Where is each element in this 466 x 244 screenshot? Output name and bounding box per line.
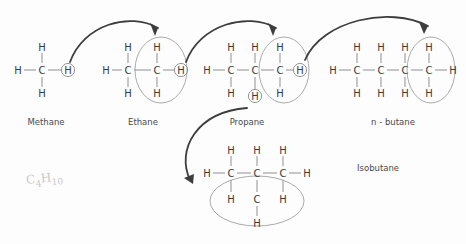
- circled-hydrogen-atom-ethane: H: [177, 65, 185, 76]
- hydrogen-atom-ethane: H: [153, 88, 161, 99]
- hydrogen-atom-propane: H: [227, 88, 235, 99]
- molecule-label-propane: Propane: [230, 117, 265, 127]
- hydrogen-atom-n-butane: H: [401, 42, 409, 53]
- handwritten-formula-annotation: C4H10: [25, 169, 64, 190]
- hydrogen-atom-methane: H: [38, 88, 46, 99]
- diagram-canvas: CHHHHCCHHHHHHCCCHHHHHHHHCCCCHHHHHHHHHHCC…: [0, 0, 466, 244]
- hydrogen-atom-n-butane: H: [401, 88, 409, 99]
- molecule-label-methane: Methane: [27, 117, 64, 127]
- carbon-atom-isobutane: C: [280, 168, 287, 179]
- carbon-atom-n-butane: C: [402, 65, 409, 76]
- hydrogen-atom-propane: H: [203, 65, 211, 76]
- reaction-arrowhead-methane-to-ethane: [150, 23, 158, 36]
- circled-hydrogen-atom-propane: H: [251, 91, 259, 102]
- molecule-label-ethane: Ethane: [128, 117, 158, 127]
- hydrogen-atom-isobutane: H: [227, 145, 235, 156]
- hydrogen-atom-propane: H: [227, 42, 235, 53]
- hydrogen-atom-propane: H: [251, 42, 259, 53]
- carbon-atom-n-butane: C: [354, 65, 361, 76]
- hydrogen-atom-ethane: H: [153, 42, 161, 53]
- carbon-atom-propane: C: [252, 65, 259, 76]
- hydrogen-atom-propane: H: [276, 42, 284, 53]
- hydrogen-atom-isobutane: H: [303, 168, 311, 179]
- hydrogen-atom-propane: H: [276, 88, 284, 99]
- hydrogen-atom-isobutane: H: [203, 168, 211, 179]
- hydrogen-atom-methane: H: [14, 65, 22, 76]
- reaction-arrow-propane-to-n-butane: [305, 17, 428, 60]
- hydrogen-atom-n-butane: H: [353, 42, 361, 53]
- carbon-atom-n-butane: C: [378, 65, 385, 76]
- hydrogen-atom-n-butane: H: [353, 88, 361, 99]
- carbon-atom-n-butane: C: [426, 65, 433, 76]
- carbon-atom-propane: C: [277, 65, 284, 76]
- hydrogen-atom-isobutane: H: [279, 194, 287, 205]
- carbon-atom-isobutane: C: [254, 194, 261, 205]
- carbon-atom-ethane: C: [154, 65, 161, 76]
- carbon-atom-propane: C: [228, 65, 235, 76]
- hydrogen-atom-isobutane: H: [253, 145, 261, 156]
- carbon-atom-methane: C: [39, 65, 46, 76]
- hydrogen-atom-n-butane: H: [449, 65, 457, 76]
- hydrogen-atom-isobutane: H: [227, 194, 235, 205]
- hydrogen-atom-n-butane: H: [329, 65, 337, 76]
- circled-hydrogen-atom-propane: H: [296, 65, 304, 76]
- hydrogen-atom-n-butane: H: [377, 88, 385, 99]
- hydrogen-atom-methane: H: [38, 42, 46, 53]
- hydrogen-atom-isobutane: H: [279, 145, 287, 156]
- reaction-arrowhead-ethane-to-propane: [268, 23, 276, 36]
- hydrogen-atom-ethane: H: [124, 88, 132, 99]
- hydrogen-atom-n-butane: H: [425, 88, 433, 99]
- hydrogen-atom-isobutane: H: [253, 218, 261, 229]
- hydrogen-atom-n-butane: H: [425, 42, 433, 53]
- molecule-label-n-butane: n - butane: [371, 117, 415, 127]
- carbon-atom-isobutane: C: [254, 168, 261, 179]
- hydrogen-atom-ethane: H: [124, 42, 132, 53]
- alkane-homologous-series-diagram: CHHHHCCHHHHHHCCCHHHHHHHHCCCCHHHHHHHHHHCC…: [0, 0, 466, 244]
- hydrogen-atom-ethane: H: [102, 65, 110, 76]
- carbon-atom-isobutane: C: [228, 168, 235, 179]
- circled-hydrogen-atom-methane: H: [64, 65, 72, 76]
- carbon-atom-ethane: C: [125, 65, 132, 76]
- molecule-label-isobutane: Isobutane: [357, 163, 399, 173]
- hydrogen-atom-n-butane: H: [377, 42, 385, 53]
- reaction-arrow-methane-to-ethane: [70, 21, 158, 62]
